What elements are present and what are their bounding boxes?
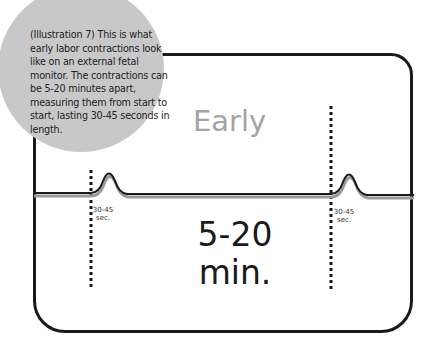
interval-value: 5-20: [180, 216, 290, 254]
interval-unit: min.: [180, 254, 290, 292]
interval-label: 5-20 min.: [180, 216, 290, 292]
duration-label-2: 30-45 sec.: [331, 208, 357, 224]
phase-label: Early: [193, 104, 266, 138]
caption-text: (Illustration 7) This is what early labo…: [30, 28, 170, 136]
duration-label-1: 30-45 sec.: [90, 206, 116, 222]
